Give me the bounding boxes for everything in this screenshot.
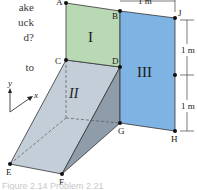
axis-y-label: y [7, 78, 12, 88]
dimension-right-upper-label: 1 m [181, 45, 195, 55]
region-ii-label: II [68, 86, 80, 101]
point-g-label: G [118, 126, 125, 136]
dimension-right-lower-label: 1 m [181, 101, 195, 111]
point-e-label: E [6, 167, 12, 177]
axes-icon [8, 88, 33, 112]
point-b-label: B [112, 11, 118, 21]
point-c-label: C [55, 56, 61, 66]
figure-caption: Figure 2.14 Problem 2.21 [2, 181, 104, 190]
dimension-top-label: 1 m [138, 0, 152, 6]
point-h-label: H [171, 134, 178, 144]
point-d-label: D [112, 56, 119, 66]
point-j-label: J [178, 8, 182, 18]
flux-surfaces-diagram: I II III A B J C D G H E F 1 m 1 m 1 m y… [0, 0, 197, 190]
point-a-label: A [56, 0, 63, 7]
region-i-label: I [88, 29, 93, 45]
region-iii-label: III [137, 64, 152, 80]
axis-x-label: x [33, 90, 38, 100]
